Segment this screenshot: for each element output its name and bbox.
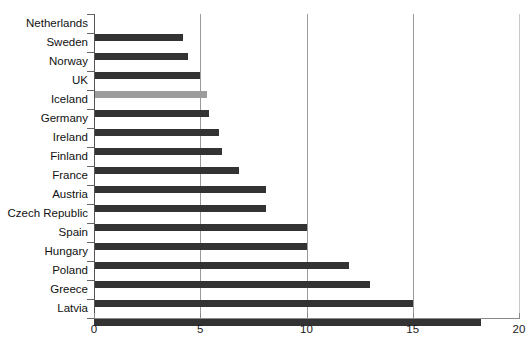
bar-row[interactable]	[94, 281, 519, 288]
bar-finland[interactable]	[94, 167, 239, 174]
y-tick-13	[87, 261, 94, 262]
category-label-uk: UK	[0, 74, 88, 87]
category-label-netherlands: Netherlands	[0, 17, 88, 30]
x-tick-label-10: 10	[300, 322, 313, 336]
y-tick-16	[87, 318, 94, 319]
y-tick-7	[87, 147, 94, 148]
y-tick-14	[87, 280, 94, 281]
y-tick-8	[87, 166, 94, 167]
category-label-france: France	[0, 169, 88, 182]
x-tick-15	[413, 313, 414, 319]
category-label-norway: Norway	[0, 55, 88, 68]
bar-row[interactable]	[94, 110, 519, 117]
category-label-germany: Germany	[0, 112, 88, 125]
y-tick-1	[87, 33, 94, 34]
y-axis-category-labels: NetherlandsSwedenNorwayUKIcelandGermanyI…	[0, 0, 88, 348]
bar-netherlands[interactable]	[94, 34, 183, 41]
bar-row[interactable]	[94, 205, 519, 212]
y-tick-0	[87, 14, 94, 15]
bar-row[interactable]	[94, 148, 519, 155]
category-label-spain: Spain	[0, 226, 88, 239]
bar-germany[interactable]	[94, 129, 219, 136]
y-tick-12	[87, 242, 94, 243]
bar-austria[interactable]	[94, 205, 266, 212]
bar-ireland[interactable]	[94, 148, 222, 155]
bar-iceland[interactable]	[94, 110, 209, 117]
x-tick-0	[94, 313, 95, 319]
category-label-greece: Greece	[0, 283, 88, 296]
x-tick-20	[519, 313, 520, 319]
bar-row[interactable]	[94, 243, 519, 250]
bar-sweden[interactable]	[94, 53, 188, 60]
category-label-poland: Poland	[0, 264, 88, 277]
bar-norway[interactable]	[94, 72, 200, 79]
category-label-iceland: Iceland	[0, 93, 88, 106]
bar-row[interactable]	[94, 300, 519, 307]
bar-czech-republic[interactable]	[94, 224, 307, 231]
y-tick-6	[87, 128, 94, 129]
x-tick-label-5: 5	[197, 322, 203, 336]
y-tick-9	[87, 185, 94, 186]
bar-row[interactable]	[94, 34, 519, 41]
category-label-austria: Austria	[0, 188, 88, 201]
y-tick-15	[87, 299, 94, 300]
bar-row[interactable]	[94, 72, 519, 79]
category-label-latvia: Latvia	[0, 302, 88, 315]
bar-latvia[interactable]	[94, 319, 481, 326]
category-label-finland: Finland	[0, 150, 88, 163]
y-tick-10	[87, 204, 94, 205]
bar-row[interactable]	[94, 91, 519, 98]
y-tick-11	[87, 223, 94, 224]
bar-france[interactable]	[94, 186, 266, 193]
x-tick-label-0: 0	[91, 322, 97, 336]
bar-chart: NetherlandsSwedenNorwayUKIcelandGermanyI…	[0, 0, 532, 348]
bar-row[interactable]	[94, 129, 519, 136]
x-tick-label-20: 20	[513, 322, 526, 336]
bar-uk[interactable]	[94, 91, 207, 98]
y-tick-5	[87, 109, 94, 110]
bar-row[interactable]	[94, 167, 519, 174]
category-label-ireland: Ireland	[0, 131, 88, 144]
y-axis-line	[94, 14, 95, 318]
bar-hungary[interactable]	[94, 262, 349, 269]
bar-spain[interactable]	[94, 243, 307, 250]
bar-greece[interactable]	[94, 300, 413, 307]
y-tick-2	[87, 52, 94, 53]
bar-row[interactable]	[94, 53, 519, 60]
x-tick-10	[307, 313, 308, 319]
plot-area	[94, 14, 519, 318]
category-label-sweden: Sweden	[0, 36, 88, 49]
category-label-czech-republic: Czech Republic	[0, 207, 88, 220]
category-label-hungary: Hungary	[0, 245, 88, 258]
y-tick-3	[87, 71, 94, 72]
gridline-20	[519, 14, 520, 318]
y-tick-4	[87, 90, 94, 91]
x-tick-5	[200, 313, 201, 319]
bar-row[interactable]	[94, 262, 519, 269]
bar-row[interactable]	[94, 186, 519, 193]
x-tick-label-15: 15	[406, 322, 419, 336]
bar-row[interactable]	[94, 224, 519, 231]
bar-poland[interactable]	[94, 281, 370, 288]
